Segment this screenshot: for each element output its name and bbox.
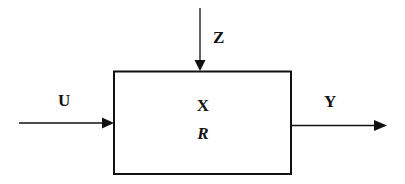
parameter-label: R	[196, 124, 208, 143]
block-diagram: Z U Y X R	[0, 0, 405, 184]
z-label: Z	[213, 28, 224, 47]
y-label: Y	[324, 92, 336, 111]
u-label: U	[58, 91, 70, 110]
arrowhead-icon	[195, 60, 206, 71]
u-input-arrow	[19, 118, 114, 129]
z-input-arrow	[195, 8, 206, 71]
arrowhead-icon	[374, 120, 387, 131]
state-label: X	[197, 96, 210, 115]
arrowhead-icon	[102, 118, 114, 129]
system-block	[114, 72, 291, 175]
y-output-arrow	[291, 120, 387, 131]
